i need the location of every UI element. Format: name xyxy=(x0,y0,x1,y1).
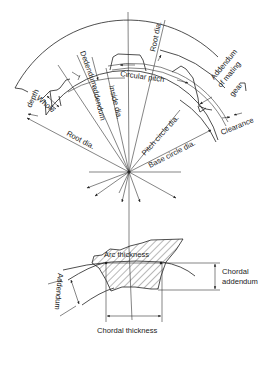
tooth-right xyxy=(172,66,212,110)
label-chordal-thickness: Chordal thickness xyxy=(97,326,158,335)
label-chordal-addendum-2: addendum xyxy=(222,277,258,286)
label-root-dia-left: Root dia. xyxy=(65,129,96,151)
label-chordal-addendum-1: Chordal xyxy=(222,267,249,276)
top-dimensions xyxy=(28,55,242,118)
radial-lines xyxy=(27,12,211,248)
label-circular-pitch: Circular pitch xyxy=(120,69,165,84)
gear-tooth-diagram: Root dia. Dedendum addendum Inside dia. … xyxy=(0,0,277,369)
label-inside-dia: Inside dia. xyxy=(107,84,124,120)
top-labels: Root dia. Dedendum addendum Inside dia. … xyxy=(25,21,255,170)
label-clearance: Clearance xyxy=(219,116,254,137)
label-addendum-bottom: Addendum xyxy=(53,273,65,310)
label-addendum-top: addendum xyxy=(90,84,107,121)
tooth-section xyxy=(92,239,183,291)
label-arc-thickness: Arc thickness xyxy=(104,250,149,259)
gear-sector xyxy=(15,20,246,142)
